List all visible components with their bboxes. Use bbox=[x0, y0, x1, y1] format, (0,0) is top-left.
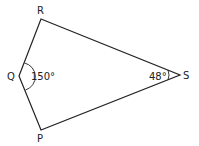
angle-label-S: 48° bbox=[149, 71, 167, 82]
vertex-label-R: R bbox=[37, 5, 44, 16]
vertex-label-P: P bbox=[37, 133, 43, 144]
vertex-label-Q: Q bbox=[7, 71, 15, 82]
angle-label-Q: 150° bbox=[31, 71, 55, 82]
vertex-label-S: S bbox=[183, 70, 189, 81]
kite-diagram: R Q P S 150° 48° bbox=[0, 0, 199, 146]
angle-arc-S bbox=[168, 70, 169, 80]
